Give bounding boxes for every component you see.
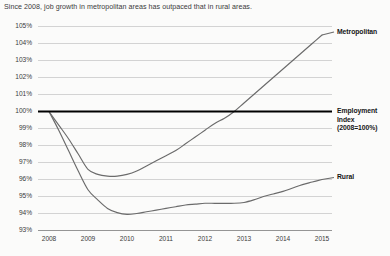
y-tick-label: 103% [2,56,32,63]
x-tick-label: 2014 [263,235,303,242]
y-tick-label: 105% [2,22,32,29]
y-tick-label: 97% [2,158,32,165]
series-label-rural: Rural [337,173,354,182]
x-tick-label: 2011 [146,235,186,242]
x-tick-label: 2013 [224,235,264,242]
y-tick-label: 101% [2,90,32,97]
x-tick-label: 2015 [302,235,342,242]
y-tick-label: 96% [2,175,32,182]
reference-label-line1: Employment [337,107,377,114]
chart-plot-area [0,0,390,256]
x-tick-label: 2008 [29,235,69,242]
leader-line-metropolitan [322,32,334,35]
y-tick-label: 100% [2,107,32,114]
y-tick-label: 102% [2,73,32,80]
label-leader-lines-group [322,32,334,180]
series-line-rural [49,112,322,215]
y-tick-label: 93% [2,226,32,233]
y-tick-label: 99% [2,124,32,131]
reference-line-label: Employment Index (2008=100%) [337,107,390,133]
y-tick-label: 104% [2,39,32,46]
chart-container: Since 2008, job growth in metropolitan a… [0,0,390,256]
reference-label-line2: Index [337,116,355,123]
gridlines-group [38,27,332,231]
y-tick-label: 95% [2,192,32,199]
x-tick-label: 2010 [107,235,147,242]
x-tick-label: 2009 [68,235,108,242]
y-tick-label: 94% [2,209,32,216]
series-lines-group [49,35,322,214]
series-label-metropolitan: Metropolitan [337,28,377,37]
y-tick-label: 98% [2,141,32,148]
reference-label-line3: (2008=100%) [337,124,377,131]
x-tick-label: 2012 [185,235,225,242]
series-line-metropolitan [49,35,322,176]
